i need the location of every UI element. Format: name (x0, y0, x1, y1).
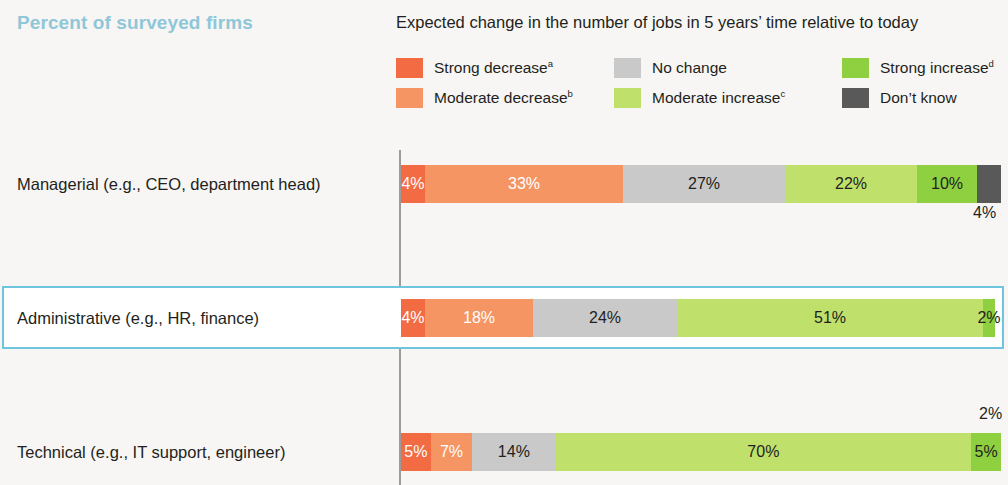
legend-item-strong-increase[interactable]: Strong increased (842, 58, 994, 78)
bar-segment[interactable]: 5% (971, 433, 1001, 471)
legend-item-dont-know[interactable]: Don’t know (842, 88, 957, 108)
legend-item-moderate-increase[interactable]: Moderate increasec (614, 88, 785, 108)
bar-segment[interactable]: 70% (555, 433, 971, 471)
legend-item-strong-decrease[interactable]: Strong decreasea (396, 58, 553, 78)
legend-label-no-change: No change (652, 60, 727, 76)
chart-row[interactable]: Technical (e.g., IT support, engineer)5%… (0, 418, 1008, 485)
legend-swatch-dont-know (842, 88, 869, 108)
legend-swatch-moderate-decrease (396, 88, 423, 108)
chart-legend: Strong decreaseaModerate decreasebNo cha… (396, 58, 1008, 114)
chart-row[interactable]: Managerial (e.g., CEO, department head)4… (0, 150, 1008, 217)
stacked-bar: 4%18%24%51%2% (401, 299, 1001, 337)
chart-row[interactable]: Administrative (e.g., HR, finance)4%18%2… (0, 284, 1008, 351)
bar-segment[interactable] (977, 165, 1001, 203)
row-label: Managerial (e.g., CEO, department head) (17, 174, 321, 193)
chart-plot-area: Managerial (e.g., CEO, department head)4… (0, 150, 1008, 485)
legend-label-strong-increase: Strong increased (880, 60, 994, 76)
bar-segment[interactable]: 22% (785, 165, 917, 203)
panel-title: Percent of surveyed firms (17, 12, 253, 34)
legend-footnote-marker-c: c (780, 88, 785, 99)
stacked-bar: 4%33%27%22%10% (401, 165, 1001, 203)
bar-segment[interactable]: 2% (983, 299, 995, 337)
row-label: Administrative (e.g., HR, finance) (17, 308, 259, 327)
legend-footnote-marker-a: a (548, 58, 553, 69)
row-label: Technical (e.g., IT support, engineer) (17, 442, 285, 461)
bar-segment[interactable]: 14% (472, 433, 555, 471)
legend-label-dont-know: Don’t know (880, 90, 957, 106)
bar-segment[interactable]: 18% (425, 299, 533, 337)
legend-label-moderate-decrease: Moderate decreaseb (434, 90, 573, 106)
bar-segment[interactable]: 10% (917, 165, 977, 203)
bar-segment[interactable]: 4% (401, 299, 425, 337)
chart-header: Percent of surveyed firms Expected chang… (0, 0, 1008, 52)
legend-footnote-marker-d: d (989, 58, 994, 69)
bar-segment[interactable]: 4% (401, 165, 425, 203)
legend-swatch-strong-increase (842, 58, 869, 78)
legend-swatch-strong-decrease (396, 58, 423, 78)
legend-item-moderate-decrease[interactable]: Moderate decreaseb (396, 88, 573, 108)
bar-segment[interactable]: 24% (533, 299, 677, 337)
chart-title: Expected change in the number of jobs in… (396, 13, 918, 32)
legend-footnote-marker-b: b (568, 88, 573, 99)
legend-item-no-change[interactable]: No change (614, 58, 727, 78)
bar-segment[interactable]: 5% (401, 433, 431, 471)
bar-segment[interactable]: 7% (431, 433, 473, 471)
legend-label-moderate-increase: Moderate increasec (652, 90, 785, 106)
legend-swatch-no-change (614, 58, 641, 78)
stacked-bar: 5%7%14%70%5% (401, 433, 1001, 471)
legend-label-strong-decrease: Strong decreasea (434, 60, 553, 76)
legend-swatch-moderate-increase (614, 88, 641, 108)
bar-segment[interactable]: 51% (677, 299, 983, 337)
bar-segment[interactable]: 27% (623, 165, 785, 203)
bar-segment[interactable]: 33% (425, 165, 623, 203)
